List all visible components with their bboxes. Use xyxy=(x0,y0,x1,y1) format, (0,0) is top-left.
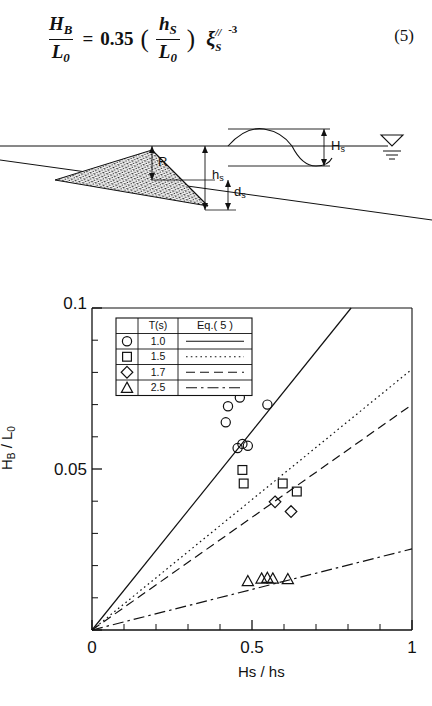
label-Hs: Hs xyxy=(331,138,345,154)
ds-arrow-down xyxy=(225,203,231,210)
label-ds: ds xyxy=(234,184,246,200)
data-point-circle xyxy=(263,400,272,409)
figure-page: HB L0 = 0.35 ( hS L0 ) ξ S // -3 (5) xyxy=(0,0,432,706)
y-axis-title: HB / L0 xyxy=(0,426,17,470)
series-triangle xyxy=(242,572,293,585)
eq5-line-diamond xyxy=(92,405,412,630)
paren-close: ) xyxy=(187,25,195,53)
data-point-square xyxy=(278,479,287,488)
data-point-circle xyxy=(243,441,252,450)
inner-numerator: hS xyxy=(156,14,180,39)
legend: T(s)Eq.( 5 )1.01.51.72.5 xyxy=(116,318,252,396)
coefficient: 0.35 xyxy=(100,28,133,50)
inner-denominator: L0 xyxy=(156,39,180,65)
legend-period-value: 2.5 xyxy=(151,381,166,393)
data-point-circle xyxy=(221,418,230,427)
water-level-triangle-icon xyxy=(381,135,403,159)
equation-5-expression: HB L0 = 0.35 ( hS L0 ) ξ S // -3 xyxy=(46,14,215,64)
xi-symbol: ξ xyxy=(206,28,215,50)
data-point-triangle xyxy=(242,575,253,585)
x-axis-title: Hs / hs xyxy=(238,663,285,680)
legend-header-period: T(s) xyxy=(149,319,168,331)
series-square xyxy=(238,466,301,496)
scatter-chart: 0.050.100.51T(s)Eq.( 5 )1.01.51.72.5 xyxy=(0,278,432,678)
series-diamond xyxy=(269,496,297,517)
berm-mound-shape xyxy=(55,150,208,206)
runup-arrow-up xyxy=(149,146,155,153)
eq5-line-square xyxy=(92,369,412,630)
data-point-diamond xyxy=(285,506,297,518)
cross-section-diagram: R hs ds Hs xyxy=(0,88,432,238)
Hs-arrow-up xyxy=(321,129,327,136)
ds-arrow-up xyxy=(225,180,231,187)
data-point-triangle xyxy=(282,574,293,584)
scatter-plot-svg: 0.050.100.51T(s)Eq.( 5 )1.01.51.72.5 xyxy=(0,278,432,678)
y-tick-label: 0.05 xyxy=(54,460,87,479)
lhs-denominator: L0 xyxy=(49,39,73,65)
sine-wave-icon xyxy=(228,129,332,166)
xi-term: ξ S // -3 xyxy=(206,28,215,51)
hs-arrow-down xyxy=(202,203,208,210)
label-hs: hs xyxy=(212,167,224,183)
data-point-circle xyxy=(223,402,232,411)
legend-period-value: 1.5 xyxy=(151,350,166,362)
x-tick-label: 0.5 xyxy=(240,638,264,657)
lhs-numerator: HB xyxy=(46,14,75,39)
equals-sign: = xyxy=(82,28,93,50)
x-tick-label: 1 xyxy=(407,638,416,657)
legend-header-eq: Eq.( 5 ) xyxy=(197,319,233,331)
data-point-square xyxy=(239,479,248,488)
x-tick-label: 0 xyxy=(87,638,96,657)
equation-block: HB L0 = 0.35 ( hS L0 ) ξ S // -3 (5) xyxy=(0,8,432,70)
inner-fraction: hS L0 xyxy=(156,14,180,64)
cross-section-svg xyxy=(0,88,432,238)
xi-prime-marks: // xyxy=(215,26,221,38)
legend-period-value: 1.7 xyxy=(151,366,166,378)
paren-open: ( xyxy=(140,25,148,53)
hs-arrow-up xyxy=(202,146,208,153)
eq5-line-triangle xyxy=(92,549,412,630)
label-runup-R: R xyxy=(158,154,167,169)
xi-subscript: S xyxy=(215,41,221,53)
lhs-fraction: HB L0 xyxy=(46,14,75,64)
legend-period-value: 1.0 xyxy=(151,335,166,347)
equation-number: (5) xyxy=(394,26,414,46)
xi-exponent: -3 xyxy=(228,23,237,35)
data-point-square xyxy=(238,466,247,475)
y-tick-label: 0.1 xyxy=(63,294,87,313)
